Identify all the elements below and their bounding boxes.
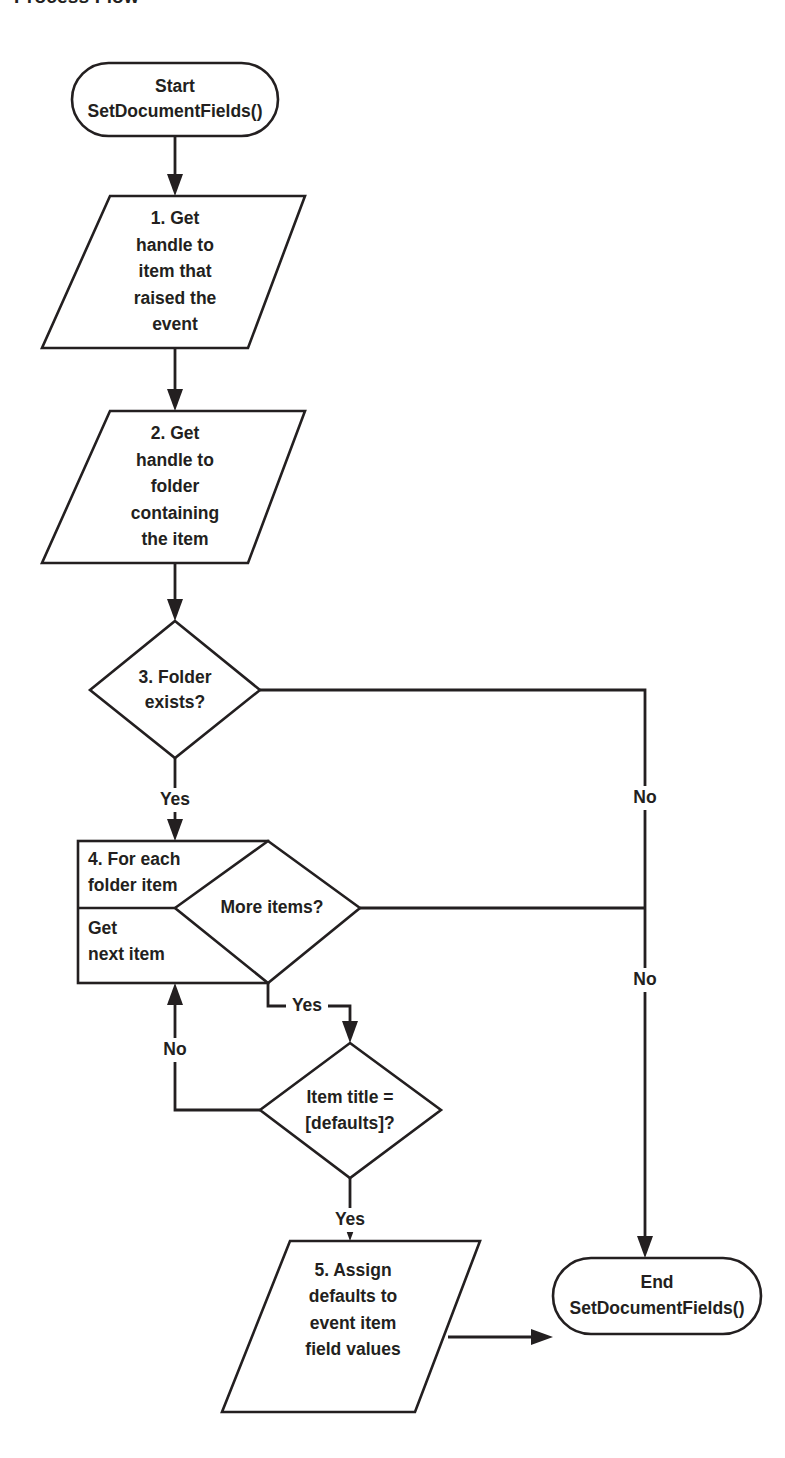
node-step1-line-1: handle to — [136, 235, 214, 255]
node-step5-line-3: field values — [305, 1339, 401, 1359]
edge-label-text: No — [163, 1039, 186, 1059]
connector-step3-no-to-end — [260, 690, 653, 1258]
node-step2-line-4: the item — [141, 529, 208, 549]
node-step5-line-1: defaults to — [309, 1286, 397, 1306]
node-end-line-0: End — [640, 1272, 673, 1292]
edge-label-text: Yes — [160, 789, 190, 809]
node-step1: 1. Get handle to item that raised the ev… — [42, 196, 305, 348]
node-start: Start SetDocumentFields() — [72, 63, 278, 136]
edge-label-yes-more-items: Yes — [286, 995, 328, 1018]
flowchart-canvas: Process Flow — [0, 0, 785, 1458]
node-step5-line-2: event item — [310, 1313, 397, 1333]
edge-label-yes-folder-exists: Yes — [154, 788, 196, 812]
node-step2-line-0: 2. Get — [151, 423, 200, 443]
connector-step2-to-step3 — [167, 563, 183, 621]
node-step1-line-4: event — [152, 314, 198, 334]
node-step3-line-0: 3. Folder — [139, 667, 212, 687]
edge-label-text: No — [633, 787, 656, 807]
process-flow-diagram: Start SetDocumentFields() 1. Get handle … — [0, 0, 785, 1458]
node-more-items-line-0: More items? — [220, 897, 323, 917]
node-step3-line-1: exists? — [145, 692, 205, 712]
edge-label-no-item-title: No — [155, 1038, 195, 1062]
edge-label-text: Yes — [335, 1209, 365, 1229]
connector-step5-to-end — [448, 1329, 553, 1345]
node-end: End SetDocumentFields() — [553, 1258, 761, 1334]
edge-label-text: Yes — [292, 995, 322, 1015]
node-step4-body-line-0: Get — [88, 918, 117, 938]
node-step1-line-0: 1. Get — [151, 208, 200, 228]
node-end-line-1: SetDocumentFields() — [569, 1298, 744, 1318]
node-start-line-0: Start — [155, 76, 195, 96]
edge-label-yes-item-title: Yes — [329, 1208, 371, 1232]
node-step2: 2. Get handle to folder containing the i… — [42, 411, 305, 563]
node-step2-line-1: handle to — [136, 450, 214, 470]
node-step2-line-2: folder — [151, 476, 200, 496]
edge-label-text: No — [633, 969, 656, 989]
node-start-line-1: SetDocumentFields() — [87, 101, 262, 121]
node-step1-line-3: raised the — [134, 288, 217, 308]
connector-start-to-step1 — [167, 135, 183, 196]
node-step5: 5. Assign defaults to event item field v… — [222, 1241, 480, 1412]
node-step1-line-2: item that — [139, 261, 212, 281]
node-item-title-line-1: [defaults]? — [305, 1113, 394, 1133]
node-item-title-decision: Item title = [defaults]? — [260, 1043, 441, 1178]
node-step4-header-line-1: folder item — [88, 875, 177, 895]
node-step3-decision: 3. Folder exists? — [90, 621, 260, 758]
node-item-title-line-0: Item title = — [306, 1087, 393, 1107]
connector-step1-to-step2 — [167, 348, 183, 411]
node-step2-line-3: containing — [131, 503, 219, 523]
edge-label-no-folder-exists: No — [626, 786, 664, 810]
edge-label-no-more-items: No — [626, 968, 664, 992]
node-step4-header-line-0: 4. For each — [88, 849, 180, 869]
node-step4-body-line-1: next item — [88, 944, 165, 964]
node-step5-line-0: 5. Assign — [314, 1260, 391, 1280]
